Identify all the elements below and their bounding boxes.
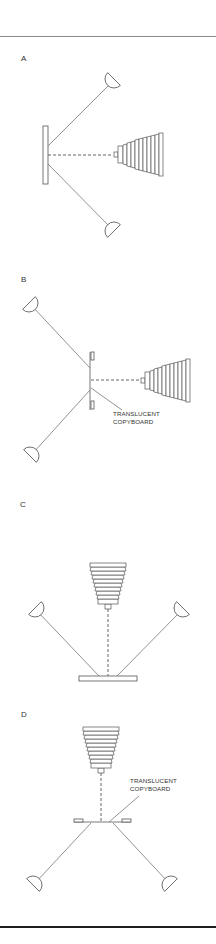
camera-bellows-c-icon — [90, 563, 126, 609]
light-ray-c-left — [38, 612, 99, 676]
camera-bellows-a-icon — [114, 133, 163, 176]
copyboard-c — [79, 676, 137, 681]
copyboard-b-clip-bottom — [91, 401, 94, 409]
annotation-leader-b — [91, 388, 122, 410]
light-ray-a-top — [48, 83, 111, 146]
panel-a — [43, 73, 163, 238]
light-ray-b-bottom — [34, 390, 90, 452]
copyboard-d-clip-right — [122, 819, 131, 822]
copyboard-a — [43, 126, 48, 184]
diagram-canvas — [0, 0, 216, 944]
light-ray-d-right — [113, 823, 168, 882]
bottom-rule — [0, 926, 216, 928]
lamp-a-top-icon — [101, 73, 120, 92]
annotation-leader-d — [109, 796, 139, 822]
light-ray-a-bottom — [48, 164, 111, 228]
panel-d — [27, 727, 178, 891]
copyboard-d-clip-left — [74, 819, 83, 822]
copyboard-b-clip-top — [91, 352, 94, 360]
light-ray-b-top — [32, 306, 90, 368]
lamp-c-left-icon — [29, 602, 48, 621]
light-ray-d-left — [36, 823, 91, 882]
camera-bellows-b-icon — [141, 359, 190, 402]
light-ray-c-right — [117, 612, 180, 676]
panel-c — [29, 563, 190, 681]
camera-bellows-d-icon — [83, 727, 119, 773]
lamp-b-bottom-icon — [24, 443, 43, 462]
lamp-c-right-icon — [170, 602, 189, 621]
panel-b — [23, 297, 190, 463]
